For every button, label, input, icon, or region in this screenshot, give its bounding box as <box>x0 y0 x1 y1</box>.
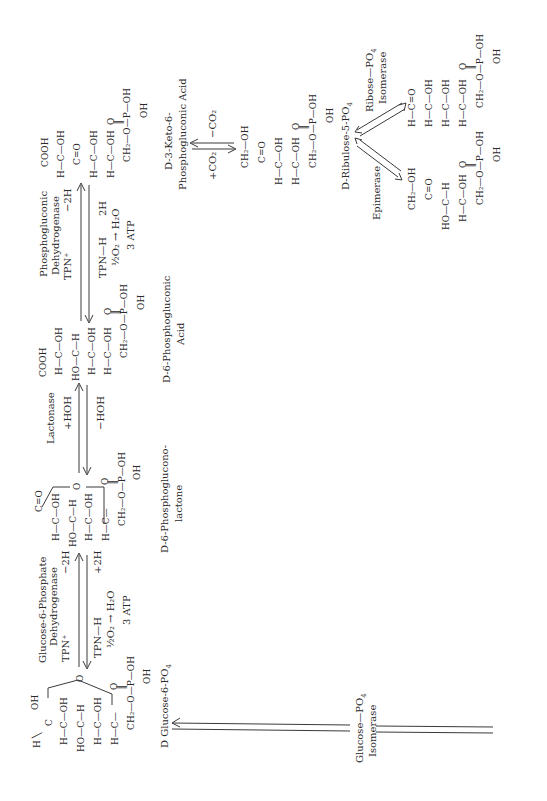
svg-text:C: C <box>44 719 54 726</box>
keto-acid-label-line2: Phosphogluconic Acid <box>177 78 188 190</box>
pathway-diagram: H ╲ OH C H—C—OH HO—C—H H—C—OH H—C— CH₂—O… <box>0 0 547 801</box>
svg-text:OH: OH <box>139 103 149 118</box>
svg-text:3 ATP: 3 ATP <box>125 220 136 250</box>
svg-text:OH: OH <box>325 108 335 123</box>
glucose-6-phosphate-label: D Glucose-6-PO4 <box>159 663 173 748</box>
svg-text:║: ║ <box>116 685 128 690</box>
keto-acid-label-line1: D-3-Keto-6- <box>163 112 174 170</box>
svg-text:CH₂—OH: CH₂—OH <box>240 125 250 168</box>
svg-text:COOH: COOH <box>40 137 50 167</box>
epimerase-label: Epimerase <box>371 166 382 220</box>
svg-text:−CO₂: −CO₂ <box>207 110 218 138</box>
svg-text:H—C—OH: H—C—OH <box>56 130 66 178</box>
lactonase-arrow <box>75 383 91 475</box>
svg-text:H—C—OH: H—C—OH <box>59 697 69 745</box>
svg-text:lactone: lactone <box>173 485 184 522</box>
svg-text:H—C—: H—C— <box>110 712 120 745</box>
g6pdh-arrow <box>75 553 91 669</box>
svg-text:Lactonase: Lactonase <box>45 392 56 444</box>
glucose-6-phosphate-structure: H ╲ OH C H—C—OH HO—C—H H—C—OH H—C— CH₂—O… <box>30 656 173 752</box>
svg-text:OH: OH <box>142 669 152 684</box>
glucose-isomerase-arrow <box>172 718 493 733</box>
svg-text:CH₂—O—P—OH: CH₂—O—P—OH <box>475 131 485 205</box>
svg-text:C=O: C=O <box>424 178 434 200</box>
ribose-isomerase-arrow <box>355 103 406 136</box>
svg-text:3 ATP: 3 ATP <box>121 595 132 625</box>
svg-text:OH: OH <box>132 465 142 480</box>
svg-text:C=O: C=O <box>72 143 82 165</box>
svg-text:H—C—OH: H—C—OH <box>87 327 97 375</box>
svg-text:OH: OH <box>136 295 146 310</box>
svg-text:H—C—OH: H—C—OH <box>89 130 99 178</box>
ribulose-5-phosphate-structure: CH₂—OH C=O H—C—OH H—C—OH CH₂—O—P—OH O ║ … <box>240 94 354 190</box>
lactone-structure: C=O H—C—OH HO—C—H H—C—OH H—C— CH₂—O—P—OH… <box>34 445 184 553</box>
svg-text:Isomerase: Isomerase <box>367 705 378 757</box>
svg-text:H—C=O: H—C=O <box>407 88 417 127</box>
glucose-isomerase-label: Glucose—PO4 Isomerase <box>354 693 378 763</box>
svg-text:║: ║ <box>465 65 477 70</box>
svg-text:CH₂—OH: CH₂—OH <box>407 167 417 210</box>
svg-text:CH₂—O—P—OH: CH₂—O—P—OH <box>126 656 136 730</box>
svg-text:Acid: Acid <box>175 322 186 346</box>
svg-text:H—C—OH: H—C—OH <box>84 493 94 541</box>
svg-text:H: H <box>32 740 42 748</box>
svg-text:H—C—OH: H—C—OH <box>291 137 301 185</box>
decarboxylation-arrow: +CO₂ −CO₂ <box>190 110 236 180</box>
svg-text:H—C—OH: H—C—OH <box>274 137 284 185</box>
svg-text:Glucose—PO4: Glucose—PO4 <box>354 693 368 763</box>
svg-text:H—C—OH: H—C—OH <box>458 79 468 127</box>
phosphogluconic-acid-label: D-6-Phosphogluconic <box>161 275 172 383</box>
ribose-5-phosphate-structure: H—C=O H—C—OH H—C—OH H—C—OH CH₂—O—P—OH O … <box>407 34 502 127</box>
svg-text:H—C—OH: H—C—OH <box>441 79 451 127</box>
svg-text:OH: OH <box>492 49 502 64</box>
svg-text:½O₂ → H₂O: ½O₂ → H₂O <box>105 590 116 648</box>
svg-text:2H: 2H <box>97 201 108 216</box>
svg-text:CH₂—O—P—OH: CH₂—O—P—OH <box>119 284 129 358</box>
svg-text:HO—C—H: HO—C—H <box>76 704 86 752</box>
svg-text:TPN—H: TPN—H <box>97 237 108 278</box>
pgdh-arrow <box>77 183 93 323</box>
svg-text:╲: ╲ <box>31 732 43 739</box>
svg-text:Phosphogluconic: Phosphogluconic <box>38 191 49 277</box>
svg-text:Glucose-6-Phosphate: Glucose-6-Phosphate <box>37 556 48 663</box>
svg-text:H—C—OH: H—C—OH <box>424 79 434 127</box>
svg-text:OH: OH <box>30 695 40 710</box>
phosphogluconic-acid-structure: COOH H—C—OH HO—C—H H—C—OH H—C—OH CH₂—O—P… <box>38 275 186 383</box>
svg-text:CH₂—O—P—OH: CH₂—O—P—OH <box>117 452 127 526</box>
svg-text:H—C—OH: H—C—OH <box>106 130 116 178</box>
svg-text:−2H: −2H <box>60 550 71 574</box>
svg-text:COOH: COOH <box>38 347 48 377</box>
svg-text:CH₂—O—P—OH: CH₂—O—P—OH <box>308 94 318 168</box>
svg-text:║: ║ <box>107 480 119 485</box>
svg-text:+CO₂: +CO₂ <box>207 152 218 180</box>
svg-text:H—C—OH: H—C—OH <box>93 697 103 745</box>
svg-text:║: ║ <box>465 163 477 168</box>
svg-text:Isomerase: Isomerase <box>377 52 388 104</box>
ribose-isomerase-label: Ribose—PO4 Isomerase <box>364 48 388 112</box>
svg-text:║: ║ <box>113 120 125 125</box>
svg-text:║: ║ <box>298 125 310 130</box>
svg-text:+2H: +2H <box>92 550 103 574</box>
lactone-label: D-6-Phosphoglucono- <box>159 445 170 553</box>
pgdh-labels: Phosphogluconic Dehydrogenase TPN⁺ −2H T… <box>38 188 136 280</box>
svg-text:║: ║ <box>110 310 122 315</box>
svg-text:O: O <box>75 675 85 682</box>
svg-text:TPN⁺: TPN⁺ <box>62 253 73 280</box>
svg-text:−2H: −2H <box>62 188 73 212</box>
svg-text:HO—C—H: HO—C—H <box>68 499 78 547</box>
svg-text:H—C—OH: H—C—OH <box>458 174 468 222</box>
svg-text:Dehydrogenase: Dehydrogenase <box>50 196 61 275</box>
svg-text:TPN—H: TPN—H <box>92 617 103 658</box>
svg-text:HO—C—H: HO—C—H <box>71 333 81 381</box>
ribulose-5-phosphate-label: D-Ribulose-5-PO4 <box>340 102 354 190</box>
svg-text:H—C—: H—C— <box>101 508 111 541</box>
svg-text:CH₂—O—P—OH: CH₂—O—P—OH <box>475 34 485 108</box>
svg-text:H—C—OH: H—C—OH <box>103 327 113 375</box>
svg-text:H—C—OH: H—C—OH <box>54 327 64 375</box>
svg-text:OH: OH <box>492 147 502 162</box>
svg-text:−HOH: −HOH <box>95 396 106 430</box>
svg-text:O: O <box>72 483 82 490</box>
svg-text:H—C—OH: H—C—OH <box>51 493 61 541</box>
svg-text:HO—C—H: HO—C—H <box>441 182 451 230</box>
lactonase-labels: Lactonase +HOH −HOH <box>45 392 106 444</box>
